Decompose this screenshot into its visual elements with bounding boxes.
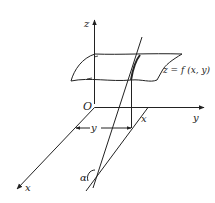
- x-axis-label: x: [25, 182, 31, 193]
- angle-alpha-arc: [87, 170, 95, 181]
- partial-derivative-diagram: z O y x z = f (x, y) x y α: [0, 0, 215, 203]
- surface-left-edge: [71, 54, 95, 81]
- surface-top-edge: [95, 54, 182, 55]
- surface-mark: [87, 78, 92, 79]
- origin-label: O: [83, 100, 92, 113]
- z-axis-label: z: [83, 18, 90, 29]
- surface-label: z = f (x, y): [162, 65, 211, 75]
- x-trace-line: [86, 108, 148, 192]
- dimension-y-label: y: [90, 122, 97, 133]
- y-axis-label: y: [192, 112, 199, 123]
- point-x-label: x: [141, 113, 147, 124]
- tangent-line: [93, 37, 142, 188]
- angle-alpha-label: α: [80, 172, 87, 183]
- surface-bottom-edge: [71, 79, 157, 81]
